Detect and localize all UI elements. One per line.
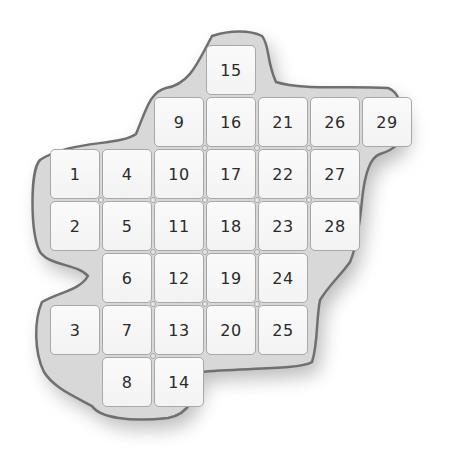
cell-4[interactable]: 4 xyxy=(102,149,152,199)
junction-node xyxy=(202,249,208,255)
junction-node xyxy=(98,197,104,203)
cell-2[interactable]: 2 xyxy=(50,201,100,251)
cell-7[interactable]: 7 xyxy=(102,305,152,355)
cell-9[interactable]: 9 xyxy=(154,97,204,147)
junction-node xyxy=(254,197,260,203)
junction-node xyxy=(202,197,208,203)
cell-26[interactable]: 26 xyxy=(310,97,360,147)
cell-1[interactable]: 1 xyxy=(50,149,100,199)
cell-21[interactable]: 21 xyxy=(258,97,308,147)
cell-18[interactable]: 18 xyxy=(206,201,256,251)
cell-6[interactable]: 6 xyxy=(102,253,152,303)
cell-8[interactable]: 8 xyxy=(102,357,152,407)
junction-node xyxy=(150,353,156,359)
cell-3[interactable]: 3 xyxy=(50,305,100,355)
junction-node xyxy=(150,197,156,203)
cell-23[interactable]: 23 xyxy=(258,201,308,251)
junction-node xyxy=(254,301,260,307)
cell-27[interactable]: 27 xyxy=(310,149,360,199)
junction-node xyxy=(202,145,208,151)
cell-14[interactable]: 14 xyxy=(154,357,204,407)
cell-24[interactable]: 24 xyxy=(258,253,308,303)
cell-29[interactable]: 29 xyxy=(362,97,412,147)
cell-19[interactable]: 19 xyxy=(206,253,256,303)
cell-15[interactable]: 15 xyxy=(206,45,256,95)
cell-22[interactable]: 22 xyxy=(258,149,308,199)
junction-node xyxy=(202,301,208,307)
cell-28[interactable]: 28 xyxy=(310,201,360,251)
junction-node xyxy=(150,301,156,307)
junction-node xyxy=(306,145,312,151)
junction-node xyxy=(306,197,312,203)
junction-node xyxy=(254,145,260,151)
junction-node xyxy=(254,249,260,255)
cell-20[interactable]: 20 xyxy=(206,305,256,355)
cell-12[interactable]: 12 xyxy=(154,253,204,303)
cell-16[interactable]: 16 xyxy=(206,97,256,147)
puzzle-board: 1234567891011121314151617181920212223242… xyxy=(0,0,454,457)
cell-5[interactable]: 5 xyxy=(102,201,152,251)
cell-11[interactable]: 11 xyxy=(154,201,204,251)
cell-10[interactable]: 10 xyxy=(154,149,204,199)
junction-node xyxy=(150,249,156,255)
cell-17[interactable]: 17 xyxy=(206,149,256,199)
cell-25[interactable]: 25 xyxy=(258,305,308,355)
cell-13[interactable]: 13 xyxy=(154,305,204,355)
